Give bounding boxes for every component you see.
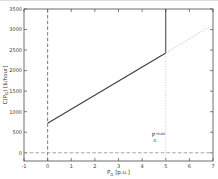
y-tick-label: 3500 [9,6,22,12]
y-tick-label: 2000 [9,67,22,73]
x-tick-label: 7 [211,163,214,169]
y-axis-label: C(PG) [$/hour] [2,66,9,105]
y-tick-label: 500 [12,129,22,135]
y-tick-label: 1500 [9,88,22,94]
x-tick-label: 0 [46,163,49,169]
y-tick-label: 1000 [9,109,22,115]
y-tick-label: 3000 [9,26,22,32]
y-tick-label: 0 [19,150,22,156]
generator-cost-curve-figure: -1012345670500100015002000250030003500PG… [0,0,218,179]
x-tick-label: 1 [70,163,73,169]
x-tick-label: 6 [188,163,191,169]
x-tick-label: 5 [164,163,167,169]
generator-cost-curve-line [48,53,166,123]
x-tick-label: -1 [22,163,27,169]
y-tick-label: 2500 [9,47,22,53]
pgmax-annotation-sub: G [153,138,156,143]
x-axis-label: PG [p.u.] [107,169,130,177]
chart-canvas: -1012345670500100015002000250030003500PG… [0,1,218,179]
plot-box [24,9,213,161]
pgmax-annotation-sup: max [156,131,165,136]
x-tick-label: 4 [141,163,144,169]
x-tick-label: 2 [93,163,96,169]
cost-curve-extension-dotted-line [166,25,213,53]
